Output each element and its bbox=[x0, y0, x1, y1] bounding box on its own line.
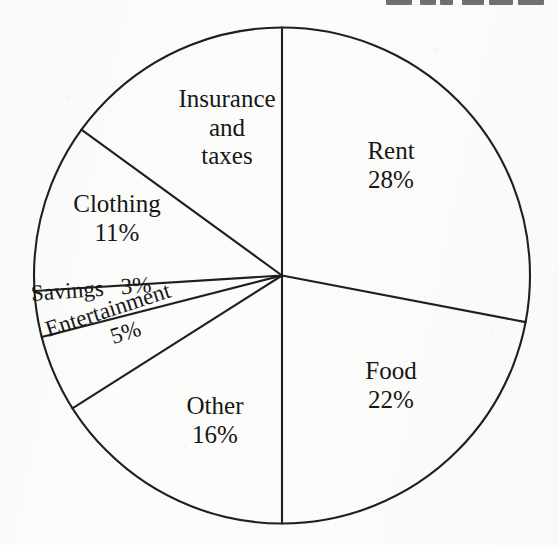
pie-label-insurance-and-taxes: Insurance and taxes bbox=[152, 85, 302, 171]
pie-label-rent: Rent 28% bbox=[333, 137, 449, 194]
figure-page: Rent 28% Food 22% Other 16% Entertainmen… bbox=[0, 0, 559, 545]
pie-label-clothing-value: 11% bbox=[42, 219, 192, 248]
pie-label-insurance-line1: Insurance bbox=[152, 85, 302, 114]
pie-label-savings-value: 3% bbox=[120, 272, 152, 299]
pie-label-food-value: 22% bbox=[333, 386, 449, 415]
pie-label-other-value: 16% bbox=[157, 421, 273, 450]
pie-label-clothing: Clothing 11% bbox=[42, 190, 192, 247]
pie-label-other-name: Other bbox=[157, 392, 273, 421]
pie-label-insurance-line3: taxes bbox=[152, 142, 302, 171]
pie-label-food-name: Food bbox=[333, 357, 449, 386]
pie-chart-graphic bbox=[0, 0, 559, 545]
pie-label-other: Other 16% bbox=[157, 392, 273, 449]
divider-rent-food bbox=[282, 276, 526, 323]
pie-label-rent-value: 28% bbox=[333, 166, 449, 195]
pie-label-food: Food 22% bbox=[333, 357, 449, 414]
pie-label-clothing-name: Clothing bbox=[42, 190, 192, 219]
pie-label-savings-name: Savings bbox=[30, 276, 104, 306]
pie-label-rent-name: Rent bbox=[333, 137, 449, 166]
pie-label-insurance-line2: and bbox=[152, 114, 302, 143]
